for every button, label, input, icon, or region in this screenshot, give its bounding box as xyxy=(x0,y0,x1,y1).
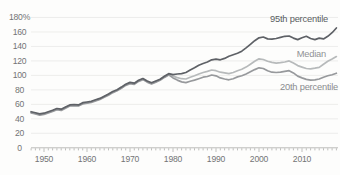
x-tick-label-1990: 1990 xyxy=(207,154,226,164)
y-tick-label-100: 100 xyxy=(13,70,27,80)
x-tick-label-1950: 1950 xyxy=(35,154,54,164)
y-tick-label-160: 160 xyxy=(13,27,27,37)
line-chart-canvas: 180%160140120100806040200195019601970198… xyxy=(0,0,340,175)
y-tick-label-120: 120 xyxy=(13,56,27,66)
x-tick-label-1980: 1980 xyxy=(164,154,183,164)
x-tick-label-1960: 1960 xyxy=(78,154,97,164)
x-tick-label-1970: 1970 xyxy=(121,154,140,164)
y-tick-label-20: 20 xyxy=(15,128,25,138)
income-percentile-growth-chart: 180%160140120100806040200195019601970198… xyxy=(0,0,340,175)
series-label-median: Median xyxy=(297,49,326,59)
x-tick-label-2010: 2010 xyxy=(293,154,312,164)
y-tick-label-40: 40 xyxy=(15,114,25,124)
y-tick-label-0: 0 xyxy=(17,143,22,153)
y-tick-label-60: 60 xyxy=(15,99,25,109)
y-tick-label-180: 180% xyxy=(9,12,31,22)
y-tick-label-140: 140 xyxy=(13,41,27,51)
y-tick-label-80: 80 xyxy=(15,85,25,95)
series-label-95th-percentile: 95th percentile xyxy=(270,14,328,24)
x-tick-label-2000: 2000 xyxy=(250,154,269,164)
series-label-20th-percentile: 20th percentile xyxy=(280,82,338,92)
